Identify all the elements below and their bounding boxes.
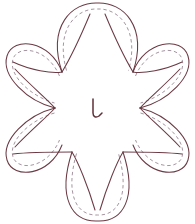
- petal-bottom: [66, 152, 129, 221]
- petal-upper-left-outline: [6, 44, 62, 108]
- petal-upper-right: [133, 44, 189, 108]
- petal-lower-left: [6, 108, 72, 172]
- petal-lower-left-base-curl-down: [13, 152, 72, 154]
- petal-top-base-curl-left: [62, 14, 90, 72]
- petal-top: [57, 3, 137, 72]
- petal-lower-left-outline: [6, 108, 62, 172]
- flower-pattern-drawing: [0, 0, 195, 224]
- center-hook-mark: [93, 99, 102, 117]
- petal-upper-left-base-curl-up: [13, 62, 62, 73]
- petal-lower-right-outline: [133, 108, 189, 172]
- petal-upper-right-base-curl-up: [133, 62, 182, 73]
- petal-top-outline: [57, 3, 137, 72]
- petal-upper-right-seamline: [136, 50, 183, 103]
- petal-lower-right-base-curl-down: [123, 152, 182, 154]
- petal-upper-right-outline: [133, 44, 189, 108]
- petal-upper-left-seamline: [12, 50, 59, 103]
- petal-lower-right-seamline: [136, 113, 183, 166]
- petal-top-base-curl-right: [105, 14, 133, 72]
- petal-lower-right-base-curl-up: [140, 108, 180, 147]
- petal-bottom-seamline: [72, 154, 123, 216]
- petal-bottom-outline: [66, 152, 129, 221]
- petal-upper-right-base-curl-down: [140, 69, 180, 108]
- petal-lower-right: [123, 108, 189, 172]
- petal-bottom-base-curl-left: [72, 152, 95, 210]
- petal-upper-left-base-curl-down: [15, 69, 55, 108]
- petal-upper-left: [6, 44, 62, 108]
- hook-icon: [93, 99, 102, 117]
- petal-top-seamline: [63, 9, 132, 71]
- petal-bottom-base-curl-right: [100, 152, 123, 210]
- petal-lower-left-base-curl-up: [15, 108, 55, 147]
- pattern-canvas: Flower Applique Pattern L: [0, 0, 195, 224]
- petal-lower-left-seamline: [12, 113, 59, 166]
